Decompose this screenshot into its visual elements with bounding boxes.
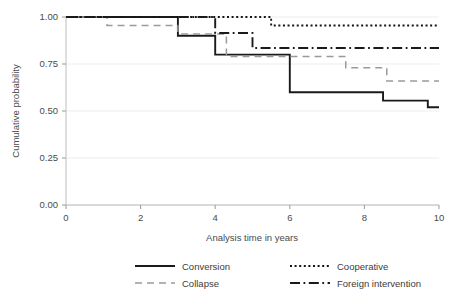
cumulative-probability-chart: 0.000.250.500.751.00 0246810 Analysis ti… — [0, 0, 453, 298]
x-tick-label: 4 — [213, 212, 218, 223]
x-tick-label: 0 — [63, 212, 68, 223]
y-tick-label: 0.75 — [40, 58, 59, 69]
y-tick-label: 0.50 — [40, 105, 59, 116]
x-tick-label: 6 — [287, 212, 292, 223]
chart-background — [0, 0, 453, 298]
legend-label-conversion: Conversion — [182, 261, 230, 272]
legend-label-foreign-intervention: Foreign intervention — [337, 278, 421, 289]
legend-label-collapse: Collapse — [182, 278, 219, 289]
y-axis-title: Cumulative probability — [10, 64, 21, 158]
legend-label-cooperative: Cooperative — [337, 261, 388, 272]
x-axis-title: Analysis time in years — [206, 232, 298, 243]
x-tick-label: 10 — [434, 212, 445, 223]
y-tick-label: 0.00 — [40, 199, 59, 210]
y-tick-label: 0.25 — [40, 152, 59, 163]
y-tick-label: 1.00 — [40, 11, 59, 22]
x-tick-label: 8 — [362, 212, 367, 223]
x-tick-label: 2 — [138, 212, 143, 223]
